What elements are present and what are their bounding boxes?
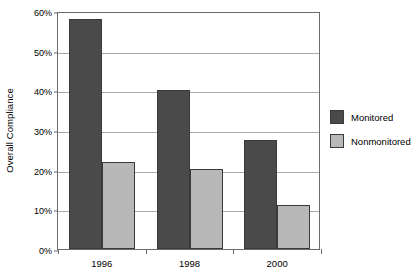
x-axis-separator [146, 249, 147, 254]
y-tick-label: 60% [34, 8, 52, 18]
y-tick-label: 50% [34, 48, 52, 58]
legend-label: Monitored [351, 112, 393, 123]
x-axis-separator [321, 249, 322, 254]
legend-item-monitored: Monitored [330, 110, 411, 124]
y-tick-mark [54, 132, 58, 133]
x-axis-separator [233, 249, 234, 254]
bar-1996-nonmonitored [102, 162, 135, 249]
y-tick-label: 0% [39, 246, 52, 256]
x-tick-label-2000: 2000 [267, 258, 288, 269]
legend-swatch-icon [330, 110, 344, 124]
plot-area: 0%10%20%30%40%50%60% 199619982000 [57, 12, 320, 250]
y-tick-mark [54, 211, 58, 212]
bar-2000-nonmonitored [277, 205, 310, 249]
y-tick-mark [54, 92, 58, 93]
legend-item-nonmonitored: Nonmonitored [330, 134, 411, 148]
y-tick-label: 20% [34, 167, 52, 177]
bar-1996-monitored [69, 19, 102, 249]
y-tick-label: 30% [34, 127, 52, 137]
y-tick-mark [54, 13, 58, 14]
bar-chart: Overall Compliance 0%10%20%30%40%50%60% … [0, 0, 416, 277]
y-axis-title-text: Overall Compliance [4, 88, 15, 173]
y-tick-mark [54, 52, 58, 53]
legend-swatch-icon [330, 134, 344, 148]
x-axis-separator [58, 249, 59, 254]
legend: MonitoredNonmonitored [330, 110, 411, 148]
x-tick-label-1998: 1998 [179, 258, 200, 269]
y-tick-label: 10% [34, 206, 52, 216]
y-tick-label: 40% [34, 87, 52, 97]
bar-2000-monitored [244, 140, 277, 249]
bar-1998-nonmonitored [190, 169, 223, 249]
bar-1998-monitored [157, 90, 190, 249]
legend-label: Nonmonitored [351, 136, 411, 147]
x-tick-label-1996: 1996 [91, 258, 112, 269]
y-tick-mark [54, 171, 58, 172]
y-axis-title: Overall Compliance [0, 0, 18, 260]
